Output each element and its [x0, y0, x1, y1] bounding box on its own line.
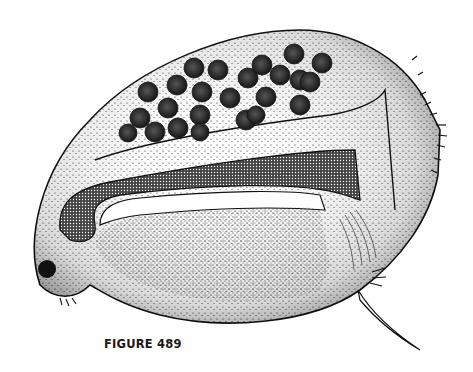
- tail-claw: [358, 290, 420, 350]
- figure-caption: FIGURE 489: [104, 337, 182, 351]
- eye: [38, 260, 56, 278]
- crustacean-illustration: [0, 0, 473, 372]
- head-spines: [60, 298, 76, 306]
